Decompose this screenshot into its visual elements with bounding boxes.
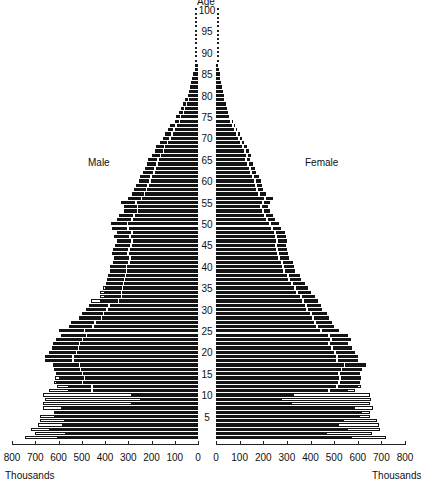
female-bar xyxy=(216,81,221,84)
female-reference-dash xyxy=(260,205,262,208)
male-dot xyxy=(195,42,197,44)
male-dot xyxy=(195,17,197,19)
male-bar xyxy=(68,385,198,388)
male-bar xyxy=(113,261,198,264)
male-bar xyxy=(56,338,198,341)
female-reference-dash xyxy=(306,308,308,311)
male-bar xyxy=(64,419,198,422)
male-reference-dash xyxy=(144,192,146,195)
male-reference-dash xyxy=(153,171,155,174)
male-bar xyxy=(145,167,198,170)
male-bar xyxy=(113,248,198,251)
male-bar xyxy=(110,269,198,272)
female-outline-bar xyxy=(281,398,371,401)
male-reference-dash xyxy=(129,235,131,238)
female-reference-dash xyxy=(314,321,316,324)
female-dot xyxy=(217,60,219,62)
male-x-tick xyxy=(35,441,36,445)
male-reference-dash xyxy=(173,128,175,131)
male-bar xyxy=(71,321,198,324)
male-bar xyxy=(143,171,198,174)
male-outline-bar xyxy=(43,402,132,405)
male-outline-bar xyxy=(40,419,66,422)
female-dot xyxy=(217,38,219,40)
male-outline-bar xyxy=(45,398,142,401)
male-dot xyxy=(195,21,197,23)
male-reference-dash xyxy=(167,141,169,144)
male-bar xyxy=(65,432,198,435)
male-reference-dash xyxy=(125,274,127,277)
female-dot xyxy=(217,21,219,23)
female-outline-bar xyxy=(357,385,362,388)
male-reference-dash xyxy=(131,239,133,242)
male-reference-dash xyxy=(179,120,181,123)
male-reference-dash xyxy=(103,312,105,315)
female-reference-dash xyxy=(296,291,298,294)
male-reference-dash xyxy=(133,214,135,217)
male-bar xyxy=(49,428,198,431)
female-bar xyxy=(216,436,352,439)
female-reference-dash xyxy=(238,137,240,140)
male-reference-dash xyxy=(156,162,158,165)
female-reference-dash xyxy=(269,222,271,225)
male-bar xyxy=(114,235,198,238)
female-bar xyxy=(216,411,362,414)
age-tick-label: 20 xyxy=(192,347,222,358)
age-tick-label: 15 xyxy=(192,369,222,380)
female-reference-dash xyxy=(330,338,332,341)
male-bar xyxy=(134,188,198,191)
male-bar xyxy=(111,222,198,225)
male-bar xyxy=(128,197,198,200)
male-bar xyxy=(54,415,198,418)
male-reference-dash xyxy=(150,175,152,178)
male-bar xyxy=(107,278,198,281)
male-bar xyxy=(104,295,198,298)
female-reference-dash xyxy=(250,171,252,174)
female-x-tick xyxy=(216,441,217,445)
male-reference-dash xyxy=(79,363,81,366)
male-outline-bar xyxy=(25,436,60,439)
female-bar xyxy=(216,85,222,88)
male-reference-dash xyxy=(131,218,133,221)
male-bar xyxy=(62,423,198,426)
female-reference-dash xyxy=(234,128,236,131)
female-reference-dash xyxy=(274,231,276,234)
female-reference-dash xyxy=(227,107,229,110)
male-bar xyxy=(115,244,198,247)
male-reference-dash xyxy=(128,248,130,251)
male-reference-dash xyxy=(126,265,128,268)
male-reference-dash xyxy=(149,179,151,182)
male-reference-dash xyxy=(91,385,93,388)
male-reference-dash xyxy=(129,256,131,259)
male-bar xyxy=(54,411,198,414)
male-bar xyxy=(147,162,198,165)
female-reference-dash xyxy=(291,282,293,285)
female-bar xyxy=(216,398,282,401)
female-reference-dash xyxy=(300,295,302,298)
female-bar xyxy=(216,423,339,426)
male-reference-dash xyxy=(180,115,182,118)
male-x-tick xyxy=(128,441,129,445)
male-reference-dash xyxy=(188,98,190,101)
male-bar xyxy=(108,274,198,277)
female-x-tick xyxy=(381,441,382,445)
male-reference-dash xyxy=(160,154,162,157)
male-x-tick xyxy=(175,441,176,445)
male-reference-dash xyxy=(124,278,126,281)
male-outline-bar xyxy=(49,389,70,392)
male-reference-dash xyxy=(121,291,123,294)
age-tick-label: 95 xyxy=(192,26,222,37)
female-outline-bar xyxy=(326,432,372,435)
male-reference-dash xyxy=(79,342,81,345)
male-bar xyxy=(79,316,198,319)
male-bar xyxy=(195,64,198,67)
female-reference-dash xyxy=(287,274,289,277)
male-outline-bar xyxy=(43,393,132,396)
female-reference-dash xyxy=(278,256,280,259)
male-reference-dash xyxy=(122,286,124,289)
female-reference-dash xyxy=(312,316,314,319)
female-reference-dash xyxy=(282,265,284,268)
female-unit-label: Thousands xyxy=(372,470,421,481)
female-reference-dash xyxy=(228,111,230,114)
male-reference-dash xyxy=(92,325,94,328)
